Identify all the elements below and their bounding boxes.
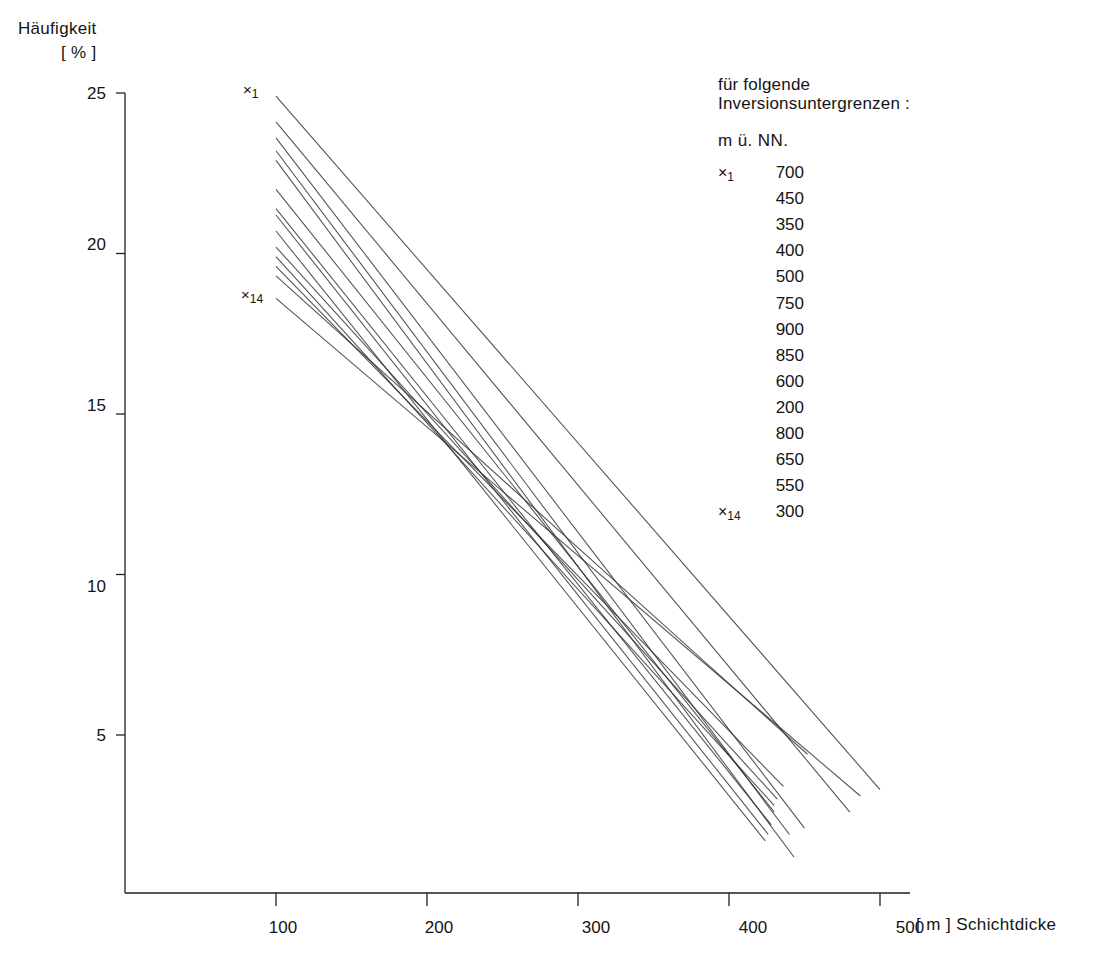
data-line: [276, 231, 765, 841]
x-tick-marks: [276, 893, 880, 906]
data-line: [276, 151, 789, 835]
plot-canvas: [0, 0, 1101, 961]
axes-group: [116, 93, 910, 906]
data-line: [276, 209, 771, 825]
chart-figure: Häufigkeit [ % ] [ m ] Schichtdicke 25 2…: [0, 0, 1101, 961]
data-line: [276, 215, 768, 835]
data-line: [276, 122, 850, 812]
data-lines-group: [276, 96, 880, 857]
data-line: [276, 298, 860, 796]
data-line: [276, 96, 880, 789]
data-line: [276, 257, 774, 806]
y-tick-marks: [116, 93, 125, 735]
data-line: [276, 138, 805, 828]
